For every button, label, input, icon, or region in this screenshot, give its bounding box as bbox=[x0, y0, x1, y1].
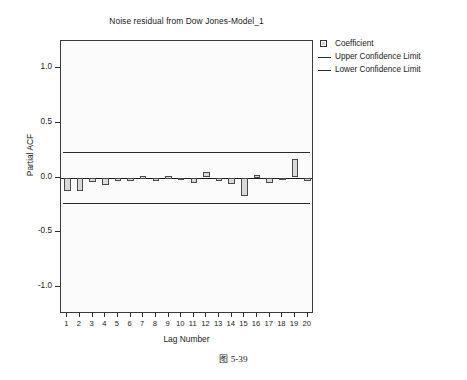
figure-container: Noise residual from Dow Jones-Model_1 1.… bbox=[0, 0, 467, 380]
coefficient-swatch-icon bbox=[318, 38, 332, 50]
upper-confidence-limit-line bbox=[63, 152, 310, 153]
x-tick-label: 8 bbox=[153, 319, 157, 328]
bar-lag-18 bbox=[279, 178, 286, 181]
legend-label: Upper Confidence Limit bbox=[335, 51, 421, 63]
x-tick-mark bbox=[92, 313, 93, 317]
bar-lag-10 bbox=[178, 178, 185, 181]
lower-confidence-limit-line bbox=[63, 203, 310, 204]
bar-lag-12 bbox=[203, 172, 210, 177]
x-tick-label: 14 bbox=[227, 319, 235, 328]
x-tick-label: 16 bbox=[252, 319, 260, 328]
line-marker-icon bbox=[318, 64, 332, 76]
y-tick-mark bbox=[55, 122, 60, 123]
x-tick-label: 19 bbox=[290, 319, 298, 328]
bar-lag-11 bbox=[191, 178, 198, 183]
bar-lag-20 bbox=[304, 178, 311, 181]
figure-caption: 图 5-39 bbox=[0, 352, 467, 365]
bar-lag-19 bbox=[292, 159, 299, 178]
x-tick-mark bbox=[256, 313, 257, 317]
line-icon bbox=[318, 70, 331, 71]
figure-caption-glyph: 图 bbox=[219, 354, 228, 364]
x-tick-mark bbox=[180, 313, 181, 317]
x-tick-label: 15 bbox=[239, 319, 247, 328]
x-tick-mark bbox=[281, 313, 282, 317]
x-tick-mark bbox=[243, 313, 244, 317]
x-tick-label: 10 bbox=[176, 319, 184, 328]
x-tick-mark bbox=[218, 313, 219, 317]
x-tick-mark bbox=[79, 313, 80, 317]
x-tick-mark bbox=[142, 313, 143, 317]
y-tick-mark bbox=[55, 177, 60, 178]
x-tick-label: 20 bbox=[302, 319, 310, 328]
square-icon bbox=[320, 40, 327, 47]
x-tick-label: 3 bbox=[90, 319, 94, 328]
x-tick-mark bbox=[117, 313, 118, 317]
legend-label: Lower Confidence Limit bbox=[335, 64, 421, 76]
x-tick-label: 5 bbox=[115, 319, 119, 328]
x-axis-title: Lag Number bbox=[60, 334, 313, 344]
bar-lag-5 bbox=[115, 178, 122, 181]
x-tick-mark bbox=[104, 313, 105, 317]
x-tick-label: 12 bbox=[201, 319, 209, 328]
x-tick-label: 18 bbox=[277, 319, 285, 328]
legend-item-coefficient[interactable]: Coefficient bbox=[318, 38, 463, 50]
x-tick-label: 11 bbox=[189, 319, 197, 328]
bar-lag-16 bbox=[254, 175, 261, 178]
x-tick-mark bbox=[307, 313, 308, 317]
x-tick-label: 9 bbox=[165, 319, 169, 328]
x-tick-mark bbox=[294, 313, 295, 317]
x-tick-label: 7 bbox=[140, 319, 144, 328]
bar-lag-8 bbox=[153, 178, 160, 181]
x-tick-mark bbox=[269, 313, 270, 317]
bar-lag-9 bbox=[165, 176, 172, 179]
chart-title: Noise residual from Dow Jones-Model_1 bbox=[60, 16, 313, 26]
x-tick-mark bbox=[231, 313, 232, 317]
legend-label: Coefficient bbox=[335, 38, 374, 50]
x-tick-label: 4 bbox=[102, 319, 106, 328]
figure-caption-number: 5-39 bbox=[231, 354, 248, 364]
zero-baseline bbox=[61, 178, 312, 179]
bar-lag-13 bbox=[216, 178, 223, 181]
x-tick-mark bbox=[193, 313, 194, 317]
legend-item-lower-confidence-limit[interactable]: Lower Confidence Limit bbox=[318, 64, 463, 76]
x-tick-mark bbox=[66, 313, 67, 317]
bar-lag-7 bbox=[140, 176, 147, 179]
x-tick-mark bbox=[205, 313, 206, 317]
x-tick-label: 6 bbox=[127, 319, 131, 328]
x-tick-label: 13 bbox=[214, 319, 222, 328]
plot-area bbox=[60, 40, 313, 313]
x-tick-label: 17 bbox=[264, 319, 272, 328]
line-icon bbox=[318, 57, 331, 58]
bar-lag-4 bbox=[102, 178, 109, 186]
x-tick-label: 2 bbox=[77, 319, 81, 328]
bar-lag-6 bbox=[127, 178, 134, 181]
bar-lag-2 bbox=[77, 178, 84, 191]
y-tick-label: -1.0 bbox=[22, 281, 52, 290]
chart-legend: CoefficientUpper Confidence LimitLower C… bbox=[318, 38, 463, 77]
bar-lag-1 bbox=[64, 178, 71, 191]
legend-item-upper-confidence-limit[interactable]: Upper Confidence Limit bbox=[318, 51, 463, 63]
x-tick-mark bbox=[168, 313, 169, 317]
y-tick-label: 1.0 bbox=[22, 62, 52, 71]
bar-lag-15 bbox=[241, 178, 248, 197]
y-tick-mark bbox=[55, 286, 60, 287]
y-tick-mark bbox=[55, 231, 60, 232]
x-tick-mark bbox=[155, 313, 156, 317]
y-tick-label: -0.5 bbox=[22, 226, 52, 235]
bar-lag-17 bbox=[266, 178, 273, 183]
bar-lag-14 bbox=[228, 178, 235, 185]
line-marker-icon bbox=[318, 51, 332, 63]
x-tick-label: 1 bbox=[64, 319, 68, 328]
bar-lag-3 bbox=[89, 178, 96, 182]
x-tick-mark bbox=[130, 313, 131, 317]
y-tick-mark bbox=[55, 67, 60, 68]
y-axis-title: Partial ACF bbox=[25, 100, 35, 210]
